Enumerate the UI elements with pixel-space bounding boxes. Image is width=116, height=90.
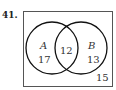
set-b-label: B <box>88 40 95 51</box>
intersection-count: 12 <box>60 45 73 56</box>
set-a-label: A <box>40 40 47 51</box>
set-b-only-count: 13 <box>87 54 100 65</box>
set-a-only-count: 17 <box>38 54 51 65</box>
outside-count: 15 <box>96 72 109 83</box>
